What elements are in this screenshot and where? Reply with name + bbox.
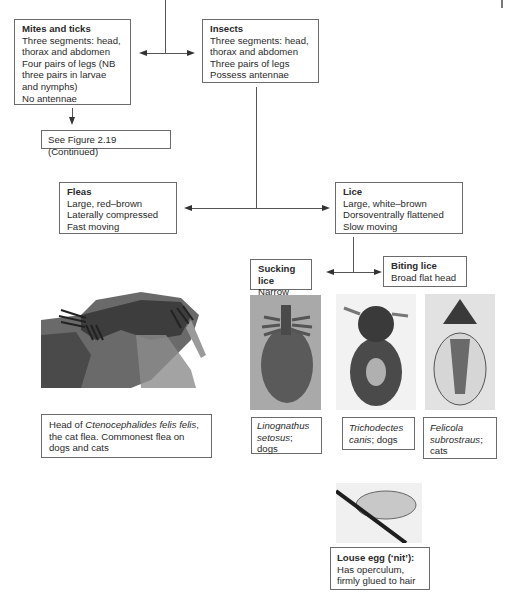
linognathus-species-line: setosus; [257,432,316,444]
biting-lice-title: Biting lice [391,260,461,272]
insects-line: Three segments: head, [210,35,313,47]
fleas-line: Large, red–brown [67,198,171,210]
trichodectes-genus: Trichodectes [349,422,408,434]
mites-line: No antennae [22,93,125,105]
biting-lice-box: Biting lice Broad flat head [383,256,467,287]
separator: ; [480,434,483,445]
louse-egg-caption-box: Louse egg (‘nit’): Has operculum, firmly… [330,547,430,590]
insects-line: Three pairs of legs [210,58,313,70]
fleas-line: Fast moving [67,221,171,233]
fleas-title: Fleas [67,186,171,198]
arrow-left-icon [139,50,147,56]
mites-ticks-box: Mites and ticks Three segments: head, th… [14,19,131,105]
arrow-right-icon [322,205,330,211]
linognathus-species: setosus [257,432,290,443]
linognathus-genus: Linognathus [257,420,316,432]
arrow-left-icon [326,269,334,275]
felicola-host: cats [430,445,490,457]
louse-egg-image [336,483,422,543]
lice-line: Slow moving [343,221,457,233]
mites-line: thorax and abdomen [22,46,125,58]
see-figure-text: See Figure 2.19 (Continued) [48,134,164,157]
see-figure-box: See Figure 2.19 (Continued) [41,130,171,149]
sucking-lice-box: Sucking lice Narrow head [250,259,312,290]
lice-box: Lice Large, white–brown Dorsoventrally f… [335,182,463,234]
mites-line: three pairs in larvae [22,69,125,81]
trichodectes-image [336,294,416,410]
felicola-caption-box: Felicola subrostraus; cats [423,417,497,459]
mites-line: and nymphs) [22,81,125,93]
fleas-line: Laterally compressed [67,209,171,221]
flea-caption-line2: the cat flea. Commonest flea on [49,431,204,443]
arrow-right-icon [187,50,195,56]
lice-line: Dorsoventrally flattened [343,209,457,221]
mites-title: Mites and ticks [22,23,125,35]
flea-head-image [41,280,212,388]
felicola-image [425,294,495,410]
page-edge-mark [501,0,503,8]
insects-title: Insects [210,23,313,35]
mites-line: Three segments: head, [22,35,125,47]
insects-line: Possess antennae [210,69,313,81]
linognathus-host: dogs [257,443,316,455]
sucking-lice-title: Sucking lice [258,263,306,286]
caption-text: Head of [49,419,85,430]
connector-sucking-biting [330,272,377,273]
arrow-down-icon [69,117,75,125]
connector-fleas-lice [188,208,324,209]
louse-egg-line: Has operculum, [337,564,423,576]
flea-species-name: Ctenocephalides felis felis [85,419,196,430]
linognathus-image [250,295,321,410]
linognathus-caption-box: Linognathus setosus; dogs [251,417,322,454]
fleas-box: Fleas Large, red–brown Laterally compres… [59,182,177,234]
felicola-species: subrostraus [430,434,480,445]
lice-line: Large, white–brown [343,198,457,210]
lice-title: Lice [343,186,457,198]
arrow-right-icon [374,269,382,275]
connector-top-horizontal [142,53,192,54]
connector-lice-down [353,237,354,272]
insects-line: thorax and abdomen [210,46,313,58]
separator: ; [290,432,293,443]
flea-caption-box: Head of Ctenocephalides felis felis, the… [41,414,212,458]
arrow-left-icon [184,205,192,211]
mites-line: Four pairs of legs (NB [22,58,125,70]
trichodectes-caption-box: Trichodectes canis; dogs [342,417,415,450]
biting-lice-desc: Broad flat head [391,272,461,284]
felicola-species-line: subrostraus; [430,434,490,446]
trichodectes-species: canis [349,434,371,445]
flea-caption-line1: Head of Ctenocephalides felis felis, [49,419,204,431]
trichodectes-host: ; dogs [371,434,397,445]
louse-egg-title: Louse egg (‘nit’): [337,552,423,564]
felicola-genus: Felicola [430,422,490,434]
trichodectes-species-line: canis; dogs [349,434,408,446]
caption-text: , [196,419,199,430]
louse-egg-line: firmly glued to hair [337,575,423,587]
connector-insects-down [256,87,257,208]
insects-box: Insects Three segments: head, thorax and… [202,19,319,83]
connector-top-vertical [165,0,166,53]
flea-caption-line3: dogs and cats [49,442,204,454]
